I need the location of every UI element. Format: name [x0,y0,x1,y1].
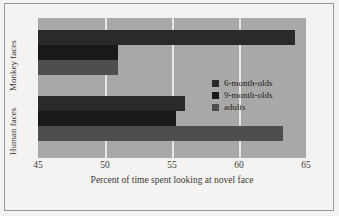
bar-monkey-faces-9-month-olds [38,45,118,60]
figure: 4550556065 Percent of time spent looking… [0,0,339,216]
legend-swatch-adults [212,104,219,111]
legend-swatch-9-month-olds [212,92,219,99]
group-label-human-faces: Human faces [8,107,18,154]
legend-swatch-6-month-olds [212,80,219,87]
bar-human-faces-6-month-olds [38,96,185,111]
bar-human-faces-adults [38,126,283,141]
group-label-monkey-faces: Monkey faces [8,40,18,91]
x-tick-60: 60 [234,160,244,170]
x-axis-label: Percent of time spent looking at novel f… [38,175,306,185]
legend-item-6-month-olds: 6-month-olds [212,78,273,89]
x-tick-50: 50 [100,160,110,170]
legend-label-9-month-olds: 9-month-olds [224,90,273,101]
legend-label-adults: adults [224,102,246,113]
legend-item-adults: adults [212,102,273,113]
legend-item-9-month-olds: 9-month-olds [212,90,273,101]
x-tick-65: 65 [301,160,311,170]
bar-human-faces-9-month-olds [38,111,176,126]
x-tick-55: 55 [167,160,177,170]
legend: 6-month-olds 9-month-olds adults [212,78,273,114]
bar-monkey-faces-6-month-olds [38,30,295,45]
legend-label-6-month-olds: 6-month-olds [224,78,273,89]
bar-monkey-faces-adults [38,60,118,75]
x-tick-45: 45 [33,160,43,170]
